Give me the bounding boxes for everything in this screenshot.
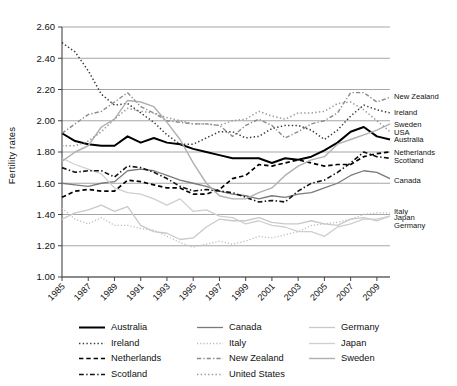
legend-swatch (196, 370, 224, 379)
right-label-scotland: Scotland (394, 156, 424, 165)
x-tick-label: 1995 (177, 281, 198, 302)
legend-item-netherlands[interactable]: Netherlands (78, 351, 196, 367)
chart-legend: AustraliaCanadaGermanyIrelandItalyJapanN… (78, 320, 408, 382)
legend-swatch (78, 339, 106, 348)
legend-swatch (308, 354, 336, 363)
legend-label: Scotland (111, 370, 147, 379)
y-tick-label: 1.20 (37, 240, 56, 251)
plot-area: 1.001.201.401.601.802.002.202.402.601985… (0, 0, 457, 310)
right-label-ireland: Ireland (394, 108, 417, 117)
legend-item-italy[interactable]: Italy (196, 336, 308, 352)
legend-label: Germany (341, 323, 379, 332)
series-line-new-zealand (62, 93, 390, 138)
legend-swatch (308, 339, 336, 348)
y-tick-label: 2.00 (37, 115, 56, 126)
grid-lines: 1.001.201.401.601.802.002.202.402.60 (37, 21, 391, 282)
right-label-australia: Australia (394, 135, 424, 144)
series-line-scotland (62, 152, 390, 202)
legend-label: Sweden (341, 354, 375, 363)
y-tick-label: 1.60 (37, 178, 56, 189)
legend-item-germany[interactable]: Germany (308, 320, 408, 336)
legend-label: Australia (111, 323, 147, 332)
y-tick-label: 2.60 (37, 21, 56, 32)
legend-swatch (78, 370, 106, 379)
x-tick-label: 2005 (308, 281, 329, 302)
legend-label: Canada (229, 323, 262, 332)
legend-swatch (196, 323, 224, 332)
series-group (62, 43, 390, 248)
legend-swatch (78, 354, 106, 363)
right-label-germany: Germany (394, 221, 425, 230)
x-tick-label: 1991 (124, 281, 145, 302)
right-label-canada: Canada (394, 176, 421, 185)
legend-item-canada[interactable]: Canada (196, 320, 308, 336)
right-label-new-zealand: New Zealand (394, 92, 439, 101)
legend-item-japan[interactable]: Japan (308, 336, 408, 352)
y-tick-label: 1.00 (37, 271, 56, 282)
x-tick-label: 2003 (282, 281, 303, 302)
legend-swatch (196, 339, 224, 348)
legend-label: Ireland (111, 339, 139, 348)
x-axis-ticks: 1985198719891991199319951997199920012003… (46, 277, 382, 303)
y-tick-label: 1.80 (37, 146, 56, 157)
y-tick-label: 2.20 (37, 84, 56, 95)
legend-item-new-zealand[interactable]: New Zealand (196, 351, 308, 367)
x-tick-label: 1985 (46, 281, 67, 302)
legend-swatch (308, 323, 336, 332)
series-line-germany (62, 205, 390, 239)
series-line-netherlands (62, 152, 390, 197)
x-tick-label: 2007 (334, 281, 355, 302)
right-series-labels: New ZealandIrelandSwedenUSAAustraliaNeth… (394, 92, 439, 230)
legend-label: New Zealand (229, 354, 284, 363)
legend-item-australia[interactable]: Australia (78, 320, 196, 336)
legend-item-united-states[interactable]: United States (196, 367, 308, 383)
legend-item-scotland[interactable]: Scotland (78, 367, 196, 383)
chart-page: Fertility rates 1.001.201.401.601.802.00… (0, 0, 457, 386)
legend-label: Netherlands (111, 354, 161, 363)
x-tick-label: 1989 (98, 281, 119, 302)
legend-label: United States (229, 370, 285, 379)
x-tick-label: 1997 (203, 281, 224, 302)
x-tick-label: 1987 (72, 281, 93, 302)
fertility-rates-line-chart: 1.001.201.401.601.802.002.202.402.601985… (0, 0, 457, 310)
x-tick-label: 2001 (256, 281, 277, 302)
legend-swatch (78, 323, 106, 332)
y-tick-label: 2.40 (37, 53, 56, 64)
x-tick-label: 1993 (151, 281, 172, 302)
y-tick-label: 1.40 (37, 209, 56, 220)
x-tick-label: 1999 (229, 281, 250, 302)
legend-label: Italy (229, 339, 246, 348)
legend-item-ireland[interactable]: Ireland (78, 336, 196, 352)
legend-item-sweden[interactable]: Sweden (308, 351, 408, 367)
legend-item-empty (308, 367, 408, 383)
legend-swatch (196, 354, 224, 363)
x-tick-label: 2009 (361, 281, 382, 302)
legend-label: Japan (341, 339, 366, 348)
